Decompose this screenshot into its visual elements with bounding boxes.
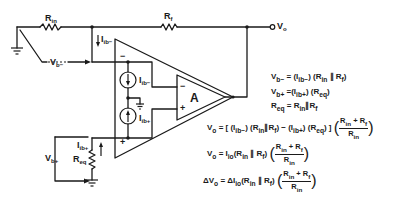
r-in-label: Rin (45, 14, 57, 24)
inner-inverting-sign: − (180, 82, 185, 91)
equation-vb-plus: Vb+ =(Iib+) (Req) (271, 88, 330, 98)
gain-fraction: Rin + RfRin (339, 117, 368, 140)
feedback-wire (233, 27, 247, 97)
junction-node-output (245, 25, 249, 29)
i-b-plus-wire-label: Iib+ (77, 141, 88, 151)
gain-fraction: Rin + RfRin (282, 170, 311, 193)
v-b-minus-label: Vb− (50, 58, 63, 68)
inverting-sign: − (120, 52, 125, 61)
equation-vo-full: Vo = [ (Iib−) (Rin∥Rf) − (Iib+) (Req) ] … (207, 117, 373, 140)
left-ground-icon (11, 48, 23, 54)
output-label: Vo (277, 22, 287, 32)
v-b-minus-diagonal (20, 30, 47, 62)
gain-fraction: Rin + RfRin (275, 143, 304, 166)
equation-delta-vo: ΔVo = ΔIio(Rin ∥ Rf) (Rin + RfRin) (203, 170, 317, 193)
r-in-resistor (40, 24, 61, 30)
junction-node-top (90, 25, 94, 29)
r-eq-label: Req (73, 155, 87, 165)
v-b-plus-label: Vb+ (45, 154, 58, 164)
i-b-plus-source-label: Iib+ (139, 114, 150, 124)
i-b-minus-wire-label: Iib− (101, 35, 112, 45)
mid-ground-icon (136, 104, 144, 109)
junction-node-noninv (126, 136, 130, 140)
mid-ground-wire (128, 98, 140, 104)
v-b-minus-arrowhead (85, 60, 91, 65)
r-f-resistor (161, 24, 177, 30)
junction-node-inv (126, 60, 130, 64)
amplifier-label: A (190, 92, 199, 104)
r-eq-resistor (89, 150, 95, 169)
i-b-minus-source-label: Iib− (139, 76, 150, 86)
output-terminal (270, 25, 275, 30)
equation-vo-iio: Vo = Iio(Rin ∥ Rf) (Rin + RfRin) (207, 143, 309, 166)
r-f-label: Rf (164, 12, 173, 22)
junction-node-mid (126, 96, 130, 100)
equation-vb-minus: Vb− = (Iib−) (Rin ∥ Rf) (271, 73, 347, 83)
equation-req: Req = Rin∥Rf (271, 102, 317, 112)
noninverting-sign: + (120, 138, 125, 147)
inner-noninverting-sign: + (180, 104, 185, 113)
